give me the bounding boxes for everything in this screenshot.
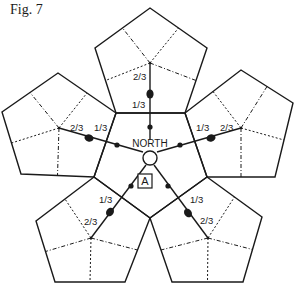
pentagon-divider bbox=[150, 63, 196, 81]
small-dot-icon bbox=[114, 142, 119, 147]
pentagon-divider bbox=[208, 238, 209, 282]
fraction-label-2-3: 2/3 bbox=[200, 215, 213, 226]
small-dot-icon bbox=[165, 183, 170, 188]
hub-dot-icon bbox=[90, 237, 93, 240]
pentagon-bottom-left bbox=[36, 177, 150, 282]
fraction-label-1-3: 1/3 bbox=[190, 194, 203, 205]
pentagon-divider bbox=[150, 28, 179, 63]
hub-dot-icon bbox=[207, 237, 210, 240]
small-dot-icon bbox=[147, 124, 152, 129]
north-label: NORTH bbox=[132, 138, 167, 149]
pentagon-divider bbox=[58, 128, 60, 176]
fraction-label-1-3: 1/3 bbox=[99, 194, 112, 205]
fraction-label-2-3: 2/3 bbox=[70, 122, 83, 133]
pentagon-divider bbox=[241, 87, 267, 129]
hub-dot-icon bbox=[240, 127, 243, 130]
pentagon-divider bbox=[161, 238, 208, 250]
marker-a-label: A bbox=[141, 175, 149, 187]
large-dot-icon bbox=[84, 133, 95, 142]
fraction-label-2-3: 2/3 bbox=[133, 71, 146, 82]
hub-dot-icon bbox=[58, 127, 61, 130]
pentagon-bottom-right bbox=[150, 177, 262, 282]
pentagon-divider bbox=[241, 128, 284, 140]
pentagon-divider bbox=[91, 238, 138, 250]
large-dot-icon bbox=[146, 89, 153, 98]
hub-dot-icon bbox=[149, 62, 152, 65]
fraction-label-1-3: 1/3 bbox=[132, 99, 145, 110]
small-dot-icon bbox=[177, 142, 182, 147]
pentagon-divider bbox=[46, 238, 92, 252]
pentagon-divider bbox=[90, 238, 91, 282]
pentagon-divider bbox=[12, 128, 60, 143]
pentagon-divider bbox=[208, 238, 253, 250]
pentagon-divider bbox=[30, 93, 59, 129]
small-dot-icon bbox=[128, 183, 133, 188]
pentagon-diagram: 1/32/31/32/31/32/31/32/31/32/3 NORTH A bbox=[0, 0, 294, 288]
fraction-label-2-3: 2/3 bbox=[220, 122, 233, 133]
pentagon-divider bbox=[123, 28, 151, 63]
fraction-label-2-3: 2/3 bbox=[84, 216, 97, 227]
center-circle-icon bbox=[143, 151, 157, 165]
fraction-label-1-3: 1/3 bbox=[94, 122, 107, 133]
large-dot-icon bbox=[206, 133, 217, 142]
fraction-label-1-3: 1/3 bbox=[196, 122, 209, 133]
